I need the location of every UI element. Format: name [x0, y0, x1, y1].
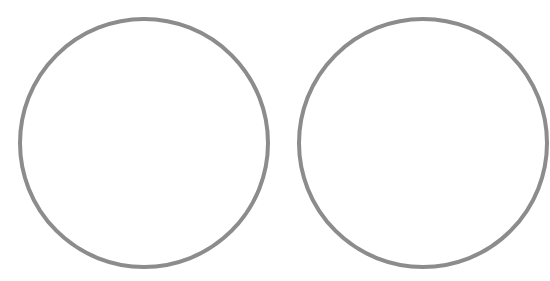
left-circle [20, 19, 268, 267]
diagram-canvas [0, 0, 550, 281]
right-circle [299, 19, 547, 267]
